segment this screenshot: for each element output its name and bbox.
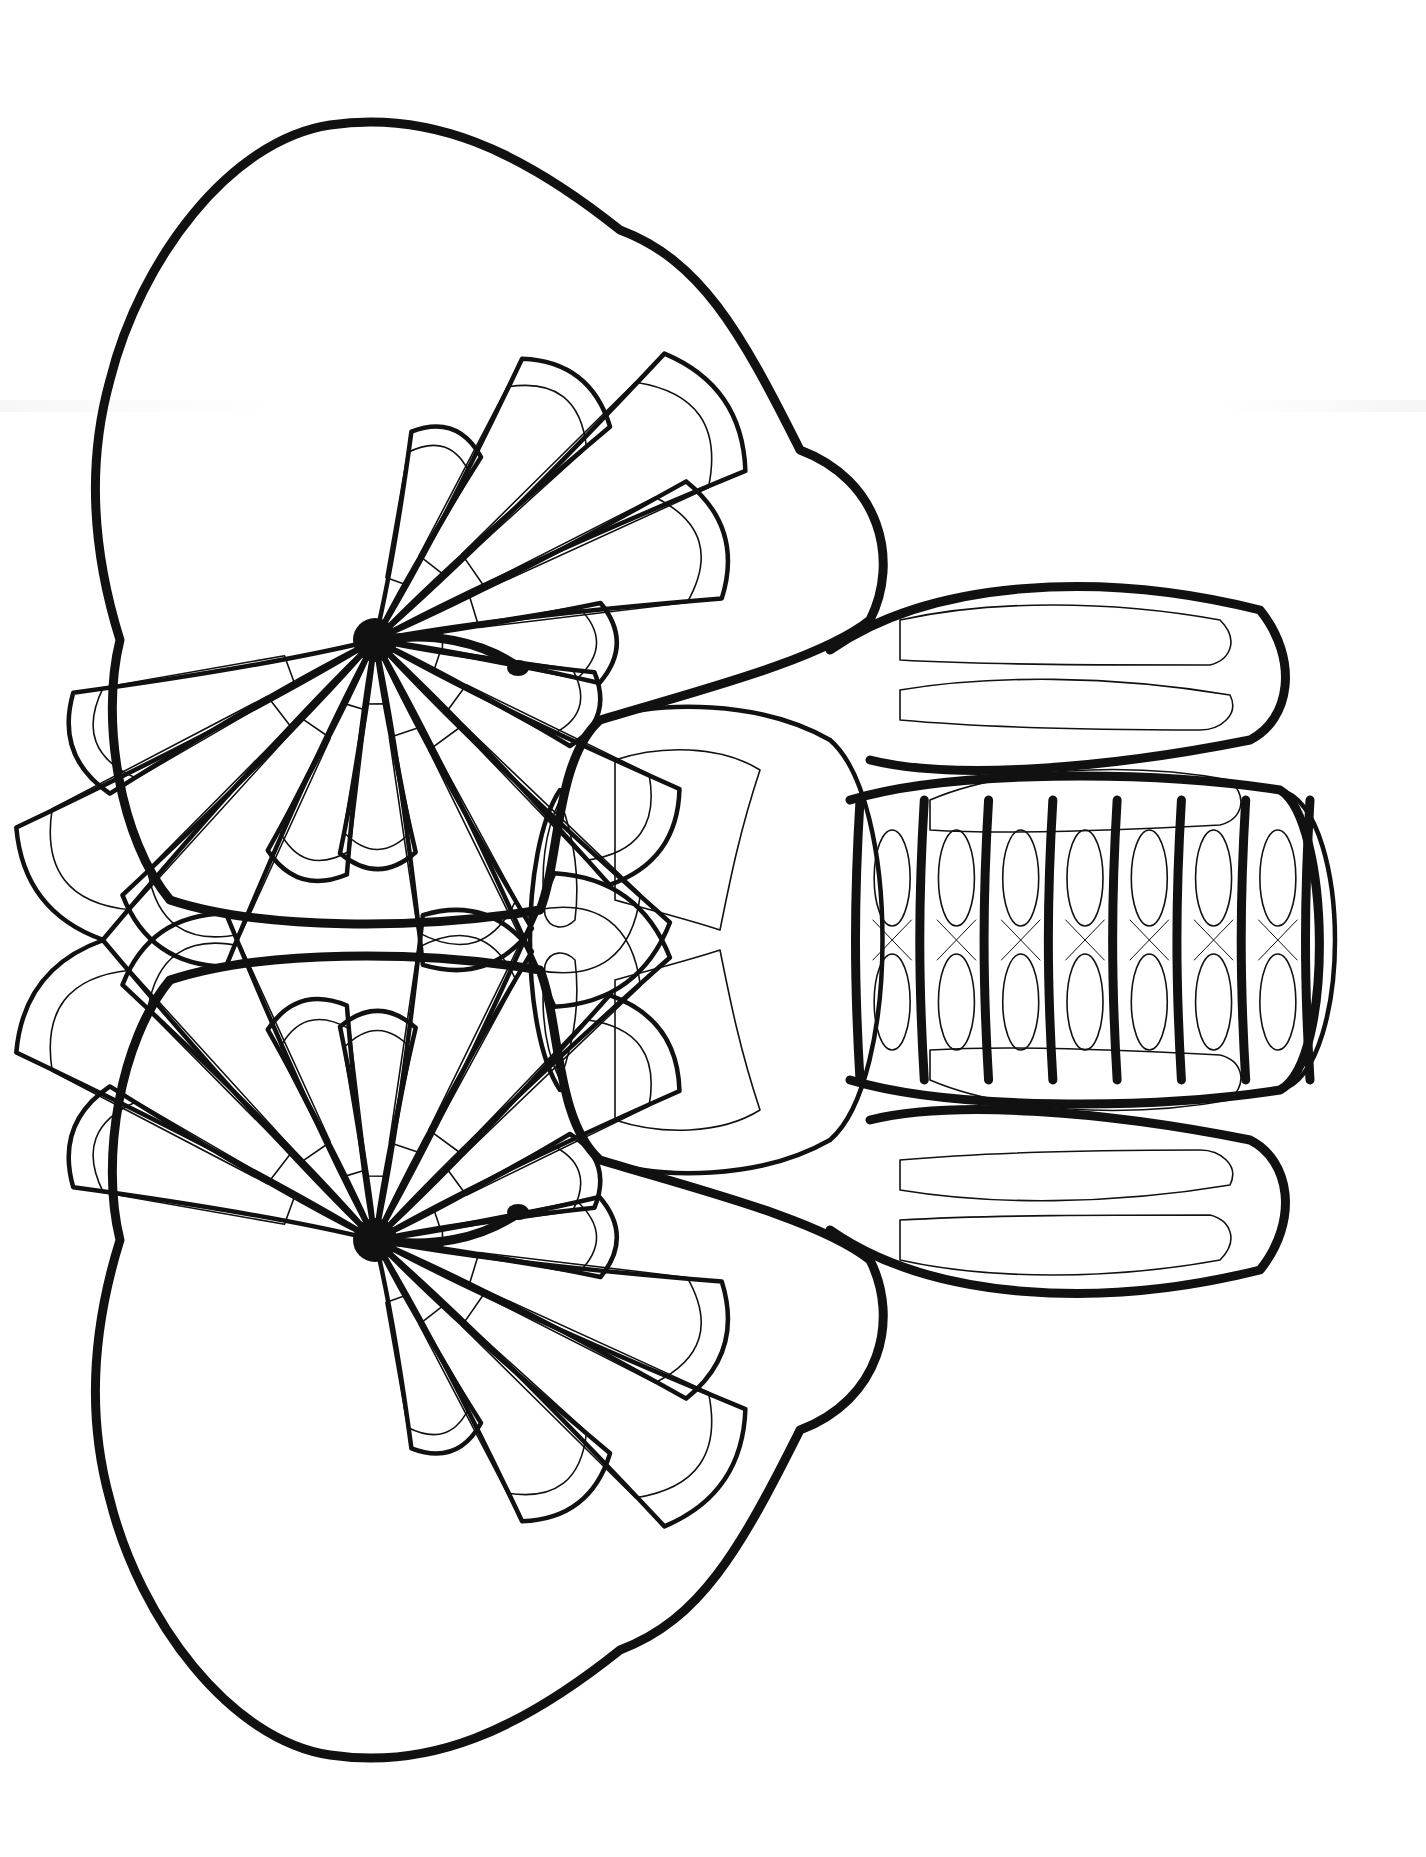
bottom-ear-petals — [16, 873, 745, 1526]
elephant-illustration — [0, 0, 1426, 1857]
ear-petal — [375, 426, 481, 640]
trunk-pattern-pod — [1067, 830, 1103, 926]
top-eye-pupil — [507, 660, 529, 676]
trunk-ring — [984, 800, 989, 1080]
trunk-ring — [1241, 800, 1246, 1080]
ear-petal — [375, 640, 679, 885]
top-ear-petals — [16, 354, 745, 1007]
trunk-pattern-pod — [1196, 830, 1232, 926]
trunk-pattern-pod — [1260, 954, 1296, 1050]
ear-petal — [375, 1240, 728, 1399]
trunk-ring — [1306, 800, 1311, 1080]
trunk-ring — [1048, 800, 1053, 1080]
top-ear — [16, 122, 883, 1007]
upper-tusk-band — [830, 587, 1285, 832]
trunk-ring — [1113, 800, 1118, 1080]
petal-pattern — [50, 970, 293, 1183]
trunk-segments — [856, 800, 1311, 1080]
top-ear-hub — [353, 618, 397, 662]
lower-tusk-band — [830, 1048, 1285, 1293]
eyes — [380, 637, 529, 1243]
ear-petal — [375, 1240, 610, 1521]
trunk-pattern-pod — [938, 954, 974, 1050]
trunk-ring — [856, 800, 861, 1080]
ear-petal — [16, 940, 375, 1240]
trunk-pattern-pod — [938, 830, 974, 926]
trunk-ring — [920, 800, 925, 1080]
trunk-pattern-pod — [1131, 954, 1167, 1050]
ear-petal — [375, 481, 728, 640]
petal-pattern — [50, 696, 293, 909]
ear-petal — [375, 995, 679, 1240]
bottom-ear — [16, 873, 883, 1758]
ear-petal — [375, 359, 610, 640]
trunk-pattern-pod — [1067, 954, 1103, 1050]
trunk-pattern-pod — [1131, 830, 1167, 926]
trunk-pattern-pod — [1003, 954, 1039, 1050]
trunk — [850, 776, 1335, 1104]
trunk-pattern-pod — [1003, 830, 1039, 926]
trunk-pattern-pod — [1260, 830, 1296, 926]
bottom-eye-pupil — [507, 1204, 529, 1220]
trunk-ring — [1177, 800, 1182, 1080]
bottom-ear-hub — [353, 1218, 397, 1262]
trunk-pattern-pod — [1196, 954, 1232, 1050]
ear-petal — [16, 640, 375, 940]
ear-petal — [375, 1240, 481, 1454]
forehead — [530, 707, 883, 1173]
